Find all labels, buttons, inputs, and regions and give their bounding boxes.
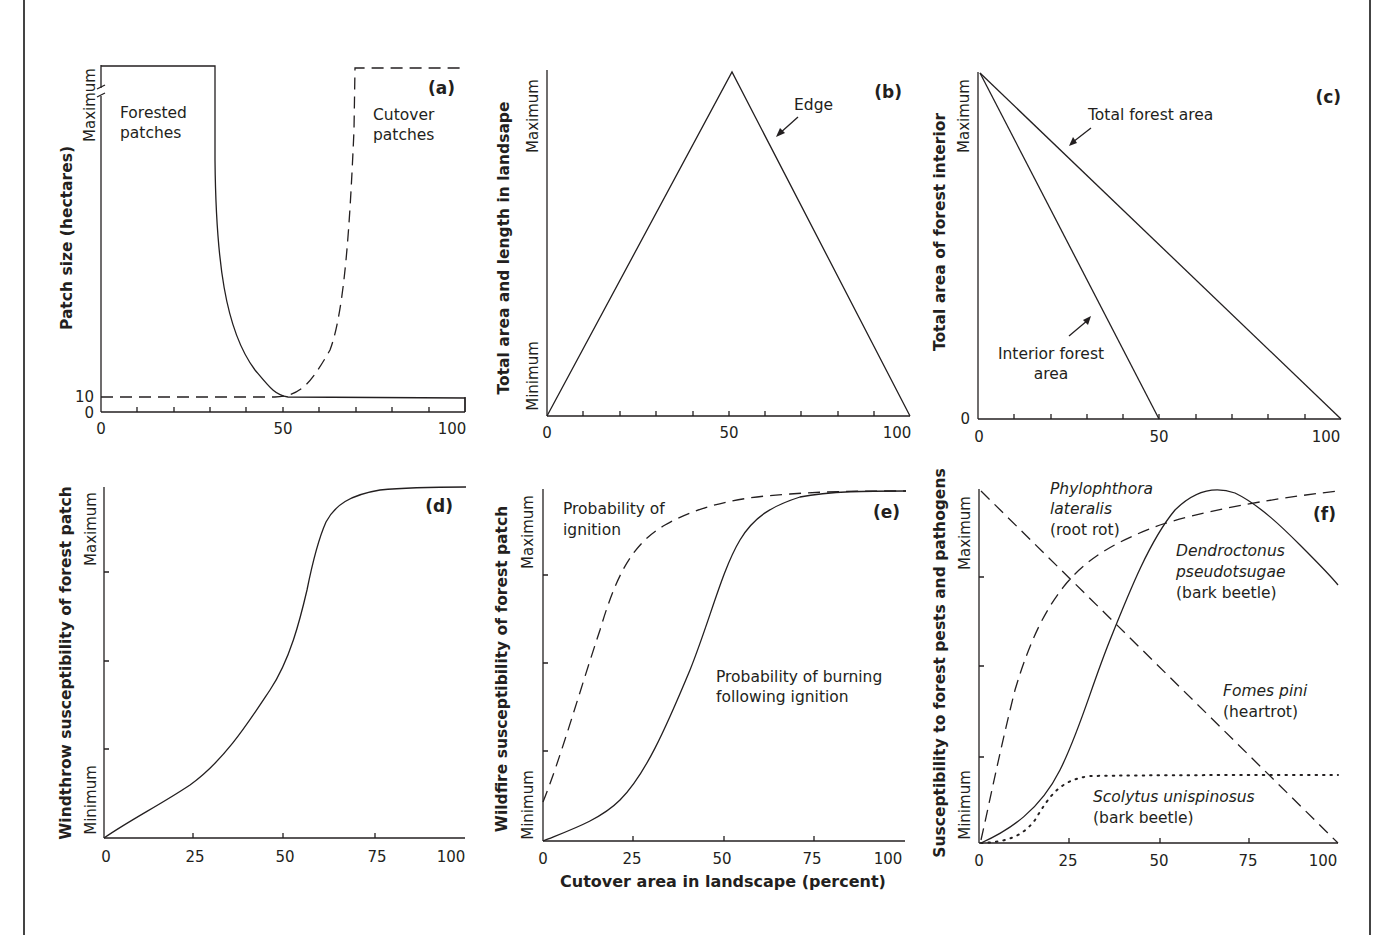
- panel-letter: (f): [1313, 504, 1336, 524]
- interior-forest-area-curve: [980, 73, 1159, 419]
- xtick-100: 100: [874, 850, 903, 868]
- xtick-50: 50: [1149, 428, 1168, 446]
- x-axis-title: Cutover area in landscape (percent): [560, 872, 886, 891]
- xtick-50: 50: [273, 420, 292, 438]
- panel-e-y-ticks: [543, 575, 548, 751]
- panel-c: Total forest area Interior forest area 0…: [931, 72, 1341, 446]
- scolytus-label-line2: (bark beetle): [1093, 809, 1194, 827]
- panel-f: Phylophthora lateralis (root rot) Dendro…: [931, 468, 1338, 870]
- dendroctonus-label-line2: pseudotsugae: [1175, 563, 1285, 581]
- xtick-25: 25: [185, 848, 204, 866]
- xtick-100: 100: [437, 848, 466, 866]
- ymin-label: Minimum: [82, 765, 100, 835]
- scolytus-label-line1: Scolytus unispinosus: [1093, 788, 1255, 806]
- xtick-75: 75: [1238, 852, 1257, 870]
- phylophthora-label-line3: (root rot): [1050, 521, 1120, 539]
- panel-d: 0 25 50 75 100 Maximum Minimum Windthrow…: [57, 486, 466, 866]
- ymax-label: Maximum: [81, 68, 99, 142]
- ytick-0: 0: [960, 410, 970, 428]
- ignition-label-line1: Probability of: [563, 500, 665, 518]
- figure: 10 0 0 50 100 Maximum Patch size (hectar…: [0, 0, 1399, 935]
- panel-e-x-ticks: [633, 836, 814, 841]
- interior-label-line2: area: [1034, 365, 1069, 383]
- panel-e: Probability of ignition Probability of b…: [493, 489, 906, 891]
- phylophthora-label-line1: Phylophthora: [1050, 480, 1153, 498]
- probability-of-burning-curve: [543, 491, 906, 841]
- ymax-label: Maximum: [524, 79, 542, 153]
- panel-b: Edge 0 50 100 Maximum Minimum Total area…: [495, 70, 911, 442]
- xtick-50: 50: [712, 850, 731, 868]
- windthrow-curve: [104, 487, 466, 838]
- panel-letter: (e): [873, 502, 900, 522]
- panel-f-y-ticks: [979, 577, 984, 757]
- xtick-100: 100: [1309, 852, 1338, 870]
- ymax-label: Maximum: [519, 495, 537, 569]
- ymin-label: Minimum: [519, 770, 537, 840]
- panel-f-x-ticks: [1069, 838, 1249, 843]
- xtick-75: 75: [367, 848, 386, 866]
- y-axis-title: Windthrow susceptibility of forest patch: [57, 486, 75, 840]
- panel-a: 10 0 0 50 100 Maximum Patch size (hectar…: [58, 65, 466, 438]
- edge-curve: [547, 72, 910, 416]
- ymax-label: Maximum: [82, 492, 100, 566]
- xtick-50: 50: [1149, 852, 1168, 870]
- xtick-0: 0: [96, 420, 106, 438]
- cutover-label-line2: patches: [373, 126, 434, 144]
- total-forest-area-label: Total forest area: [1087, 106, 1213, 124]
- ymax-label: Maximum: [956, 496, 974, 570]
- panel-d-y-ticks: [104, 572, 109, 749]
- forested-label-line1: Forested: [120, 104, 187, 122]
- interior-arrow-icon: [1069, 320, 1088, 336]
- xtick-50: 50: [275, 848, 294, 866]
- ymin-label: Minimum: [956, 770, 974, 840]
- xtick-50: 50: [719, 424, 738, 442]
- total-arrow-icon: [1073, 128, 1091, 142]
- ymin-label: Minimum: [524, 341, 542, 411]
- xtick-25: 25: [622, 850, 641, 868]
- edge-label: Edge: [794, 96, 833, 114]
- interior-label-line1: Interior forest: [998, 345, 1104, 363]
- forested-label-line2: patches: [120, 124, 181, 142]
- panel-b-x-ticks: [583, 411, 874, 416]
- xtick-100: 100: [438, 420, 467, 438]
- panel-letter: (a): [428, 78, 455, 98]
- xtick-25: 25: [1058, 852, 1077, 870]
- y-axis-title: Total area of forest interior: [931, 113, 949, 351]
- y-axis-title: Susceptibility to forest pests and patho…: [931, 468, 949, 857]
- dendroctonus-label-line3: (bark beetle): [1176, 584, 1277, 602]
- xtick-100: 100: [1312, 428, 1341, 446]
- fomes-label-line2: (heartrot): [1223, 703, 1298, 721]
- xtick-0: 0: [542, 424, 552, 442]
- cutover-label-line1: Cutover: [373, 106, 435, 124]
- panel-c-x-ticks: [1014, 414, 1305, 419]
- fomes-label-line1: Fomes pini: [1223, 682, 1308, 700]
- y-axis-title: Wildfire susceptibility of forest patch: [493, 506, 511, 832]
- y-axis-title: Total area and length in landsape: [495, 102, 513, 395]
- y-axis-title: Patch size (hectares): [58, 146, 76, 330]
- burning-label-line1: Probability of burning: [716, 668, 882, 686]
- xtick-75: 75: [802, 850, 821, 868]
- xtick-0: 0: [101, 848, 111, 866]
- dendroctonus-label-line1: Dendroctonus: [1176, 542, 1285, 560]
- phylophthora-label-line2: lateralis: [1050, 500, 1112, 518]
- panel-a-x-ticks: [137, 397, 465, 412]
- xtick-0: 0: [974, 852, 984, 870]
- xtick-100: 100: [883, 424, 912, 442]
- panel-d-x-ticks: [193, 833, 375, 838]
- panel-letter: (b): [874, 82, 902, 102]
- panel-letter: (c): [1315, 87, 1341, 107]
- burning-label-line2: following ignition: [716, 688, 849, 706]
- ymax-label: Maximum: [955, 79, 973, 153]
- xtick-0: 0: [538, 850, 548, 868]
- xtick-0: 0: [974, 428, 984, 446]
- arrowhead-icon: [1069, 137, 1077, 146]
- ytick-0: 0: [84, 404, 94, 422]
- ignition-label-line2: ignition: [563, 521, 621, 539]
- panel-letter: (d): [425, 496, 453, 516]
